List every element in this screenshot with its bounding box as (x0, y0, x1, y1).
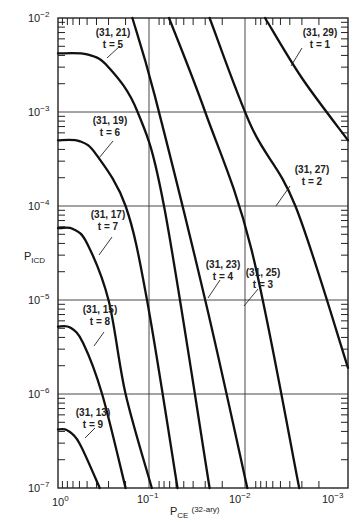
label-t1-t: t = 1 (310, 39, 331, 50)
label-t1-code: (31, 29) (303, 27, 337, 38)
y-tick-label: 10−5 (28, 292, 50, 306)
x-tick-label: 100 (52, 494, 69, 508)
label-t4-code: (31, 23) (206, 259, 240, 270)
label-t6-t: t = 6 (100, 127, 121, 138)
chart: (31, 21) t = 5 (31, 19) t = 6 (31, 17) t… (0, 0, 359, 522)
y-tick-label: 10−6 (28, 386, 50, 400)
label-t7-t: t = 7 (98, 221, 119, 232)
label-t7-code: (31, 17) (91, 209, 125, 220)
curve-t2 (210, 18, 348, 368)
x-tick-label: 10−3 (322, 491, 344, 505)
label-t9-code: (31, 13) (76, 407, 110, 418)
curve-t9 (58, 429, 100, 488)
y-axis-title: PICD (24, 250, 45, 265)
label-t5-code: (31, 21) (96, 27, 130, 38)
label-t3-code: (31, 25) (246, 267, 280, 278)
x-tick-label: 10−1 (137, 491, 159, 505)
label-t3-t: t = 3 (253, 279, 274, 290)
curve-labels: (31, 21) t = 5 (31, 19) t = 6 (31, 17) t… (76, 27, 337, 430)
curve-t6 (58, 140, 178, 488)
label-t8-t: t = 8 (90, 316, 111, 327)
curve-t3 (169, 18, 299, 488)
y-tick-label: 10−3 (28, 104, 50, 118)
label-t2-code: (31, 27) (295, 164, 329, 175)
curve-t4 (132, 18, 247, 488)
label-t4-t: t = 4 (213, 271, 234, 282)
curve-t7 (58, 228, 152, 488)
label-t2-t: t = 2 (302, 176, 323, 187)
label-t9-t: t = 9 (83, 419, 104, 430)
y-tick-label: 10−4 (28, 198, 50, 212)
y-tick-label: 10−2 (28, 10, 50, 24)
x-tick-label: 10−2 (229, 491, 251, 505)
x-axis-title: PCE(32-ary) (170, 505, 220, 520)
y-tick-label: 10−7 (28, 480, 50, 494)
label-t5-t: t = 5 (103, 39, 124, 50)
label-t8-code: (31, 15) (83, 304, 117, 315)
label-t6-code: (31, 19) (93, 115, 127, 126)
